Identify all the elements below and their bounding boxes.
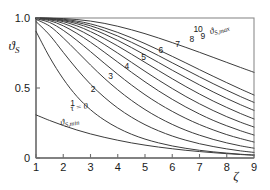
x-tick-label: 5 — [142, 161, 148, 173]
curve-label-4: 4 — [124, 61, 129, 71]
curve-label-3: 3 — [108, 71, 113, 81]
curve-label-7: 7 — [175, 39, 180, 49]
chart-figure: 123456789 00.51.0 12345678910 τ = 0ϑS,mi… — [0, 0, 270, 190]
y-tick-label: 1.0 — [15, 12, 30, 24]
curve-label-2: 2 — [91, 84, 96, 94]
temperature-profile-chart: 123456789 00.51.0 12345678910 τ = 0ϑS,mi… — [0, 0, 270, 190]
y-tick-label: 0.5 — [15, 82, 30, 94]
x-tick-label: 7 — [196, 161, 202, 173]
x-tick-label: 6 — [169, 161, 175, 173]
x-tick-label: 1 — [33, 161, 39, 173]
x-tick-label: 9 — [251, 161, 257, 173]
x-tick-label: 3 — [87, 161, 93, 173]
curve-label-5: 5 — [141, 52, 146, 62]
y-tick-label: 0 — [24, 152, 30, 164]
x-tick-label: 8 — [224, 161, 230, 173]
curve-label-10: 10 — [193, 24, 203, 34]
x-axis-title: ζ — [233, 168, 239, 183]
x-tick-label: 4 — [115, 161, 121, 173]
curve-label-8: 8 — [190, 34, 195, 44]
curve-label-6: 6 — [158, 45, 163, 55]
x-tick-label: 2 — [60, 161, 66, 173]
